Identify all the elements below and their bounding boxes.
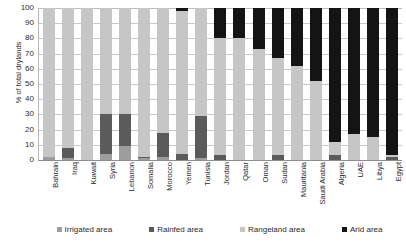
- legend-swatch-icon: [342, 227, 347, 232]
- legend-item-irrigated-area: Irrigated area: [57, 225, 113, 234]
- bar-segment-rangeland-area: [272, 58, 284, 155]
- bar-segment-arid-area: [310, 8, 322, 81]
- bar-segment-rainfed-area: [176, 154, 188, 160]
- bar-algeria: [329, 8, 341, 160]
- legend-swatch-icon: [149, 227, 154, 232]
- stacked-bar-chart: % of total drylands 10090807060504030201…: [0, 0, 406, 242]
- x-tick-kuwait: Kuwait: [80, 162, 92, 218]
- bar-tunisia: [195, 8, 207, 160]
- bar-segment-rangeland-area: [138, 8, 150, 157]
- bar-segment-irrigated-area: [195, 158, 207, 160]
- bar-egypt: [386, 8, 398, 160]
- bar-segment-rainfed-area: [195, 116, 207, 159]
- bar-group: [39, 8, 402, 160]
- bar-segment-arid-area: [214, 8, 226, 38]
- x-tick-label: Kuwait: [90, 162, 98, 185]
- bar-iraq: [62, 8, 74, 160]
- x-tick-egypt: Egypt: [385, 162, 397, 218]
- bar-segment-rangeland-area: [100, 8, 112, 114]
- x-tick-label: UAE: [357, 162, 365, 177]
- x-tick-label: Iraq: [71, 162, 79, 175]
- x-tick-label: Tunisia: [204, 162, 212, 186]
- bar-segment-irrigated-area: [138, 158, 150, 160]
- bar-sudan: [272, 8, 284, 160]
- x-tick-qatar: Qatar: [232, 162, 244, 218]
- bar-syria: [100, 8, 112, 160]
- legend-label: Irrigated area: [65, 225, 113, 234]
- legend-label: Arid area: [350, 225, 382, 234]
- x-tick-sudan: Sudan: [271, 162, 283, 218]
- bar-segment-rangeland-area: [119, 8, 131, 114]
- bar-segment-arid-area: [272, 8, 284, 58]
- y-tick-label: 70: [12, 50, 34, 58]
- bar-lebanon: [119, 8, 131, 160]
- bar-segment-rangeland-area: [62, 8, 74, 148]
- x-tick-label: Algeria: [338, 162, 346, 185]
- bar-segment-arid-area: [367, 8, 379, 137]
- bar-segment-rangeland-area: [157, 8, 169, 133]
- bar-yemen: [176, 8, 188, 160]
- x-tick-label: Sudan: [281, 162, 289, 184]
- x-tick-morocco: Morocco: [156, 162, 168, 218]
- y-axis-tick-labels: 1009080706050403020100: [12, 8, 34, 160]
- bar-kuwait: [81, 8, 93, 160]
- bar-segment-rainfed-area: [329, 155, 341, 160]
- legend-item-rangeland-area: Rangeland area: [240, 225, 305, 234]
- x-tick-iraq: Iraq: [61, 162, 73, 218]
- y-tick-label: 50: [12, 80, 34, 88]
- x-tick-label: Libya: [376, 162, 384, 180]
- bar-segment-rangeland-area: [233, 38, 245, 160]
- x-tick-mauritania: Mauritania: [290, 162, 302, 218]
- bar-segment-rainfed-area: [386, 157, 398, 160]
- bar-segment-irrigated-area: [100, 154, 112, 160]
- bar-segment-rangeland-area: [348, 134, 360, 160]
- x-tick-label: Jordan: [223, 162, 231, 185]
- bar-segment-rainfed-area: [272, 155, 284, 160]
- y-tick-label: 40: [12, 95, 34, 103]
- legend-item-rainfed-area: Rainfed area: [149, 225, 203, 234]
- bar-segment-arid-area: [348, 8, 360, 134]
- bar-segment-rainfed-area: [100, 114, 112, 154]
- x-tick-label: Egypt: [395, 162, 403, 181]
- x-tick-label: Oman: [262, 162, 270, 182]
- bar-segment-rangeland-area: [176, 11, 188, 154]
- bar-libya: [367, 8, 379, 160]
- bar-somalia: [138, 8, 150, 160]
- bar-segment-arid-area: [233, 8, 245, 38]
- x-tick-label: Qatar: [242, 162, 250, 181]
- bar-segment-arid-area: [329, 8, 341, 142]
- legend-label: Rangeland area: [248, 225, 305, 234]
- y-tick-label: 30: [12, 110, 34, 118]
- bar-segment-rangeland-area: [195, 8, 207, 116]
- y-tick-label: 100: [12, 4, 34, 12]
- x-axis-tick-labels: BahrainIraqKuwaitSyriaLebanonSomaliaMoro…: [38, 162, 401, 218]
- x-tick-label: Morocco: [166, 162, 174, 191]
- bar-segment-rangeland-area: [214, 38, 226, 155]
- bar-morocco: [157, 8, 169, 160]
- bar-segment-rangeland-area: [310, 81, 322, 160]
- y-tick-label: 90: [12, 19, 34, 27]
- bar-bahrain: [43, 8, 55, 160]
- y-tick-label: 10: [12, 141, 34, 149]
- plot-area: [38, 8, 402, 161]
- x-tick-oman: Oman: [252, 162, 264, 218]
- bar-segment-rainfed-area: [214, 155, 226, 160]
- bar-segment-arid-area: [253, 8, 265, 49]
- legend-label: Rainfed area: [157, 225, 203, 234]
- bar-oman: [253, 8, 265, 160]
- bar-segment-irrigated-area: [157, 157, 169, 160]
- x-tick-jordan: Jordan: [213, 162, 225, 218]
- x-tick-algeria: Algeria: [328, 162, 340, 218]
- bar-segment-rangeland-area: [81, 8, 93, 160]
- bar-jordan: [214, 8, 226, 160]
- y-tick-label: 60: [12, 65, 34, 73]
- legend-item-arid-area: Arid area: [342, 225, 382, 234]
- x-tick-uae: UAE: [347, 162, 359, 218]
- bar-segment-rangeland-area: [367, 137, 379, 160]
- y-tick-label: 20: [12, 126, 34, 134]
- bar-segment-arid-area: [291, 8, 303, 66]
- bar-segment-irrigated-area: [43, 157, 55, 160]
- bar-segment-rangeland-area: [329, 142, 341, 156]
- bar-uae: [348, 8, 360, 160]
- legend-swatch-icon: [240, 227, 245, 232]
